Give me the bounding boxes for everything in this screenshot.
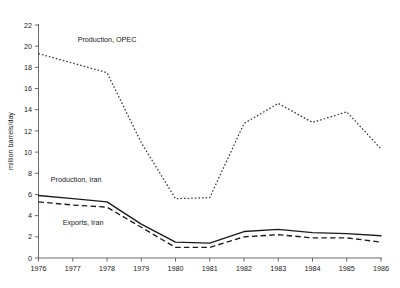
chart-background [0,0,400,288]
x-axis-tick-label: 1983 [270,264,286,273]
y-axis-tick-label: 14 [24,105,32,114]
x-axis-tick-label: 1978 [99,264,115,273]
y-axis-tick-label: 0 [28,254,32,263]
annotation-production-opec: Production, OPEC [78,35,137,44]
x-axis-tick-label: 1976 [31,264,47,273]
y-axis-tick-label: 22 [24,21,32,30]
line-chart: 0246810121416182022 19761977197819791980… [0,0,400,288]
x-axis-tick-label: 1981 [202,264,218,273]
x-axis-tick-label: 1977 [65,264,81,273]
y-axis-tick-label: 20 [24,42,32,51]
y-axis-tick-label: 12 [24,127,32,136]
x-axis-tick-label: 1985 [339,264,355,273]
y-axis-tick-label: 8 [28,169,32,178]
x-axis-tick-label: 1984 [305,264,321,273]
y-axis-tick-label: 2 [28,232,32,241]
y-axis-tick-label: 16 [24,84,32,93]
annotation-production-iran: Production, Iran [51,175,102,184]
x-axis-tick-label: 1979 [133,264,149,273]
y-axis-tick-label: 10 [24,148,32,157]
y-axis-title: million barrels/day [6,112,15,170]
x-axis-tick-label: 1980 [168,264,184,273]
annotation-exports-iran: Exports, Iran [63,218,104,227]
x-axis-tick-label: 1986 [373,264,389,273]
x-axis-tick-label: 1982 [236,264,252,273]
y-axis-tick-label: 4 [28,211,32,220]
chart-container: 0246810121416182022 19761977197819791980… [0,0,400,288]
y-axis-tick-label: 6 [28,190,32,199]
y-axis-tick-label: 18 [24,63,32,72]
